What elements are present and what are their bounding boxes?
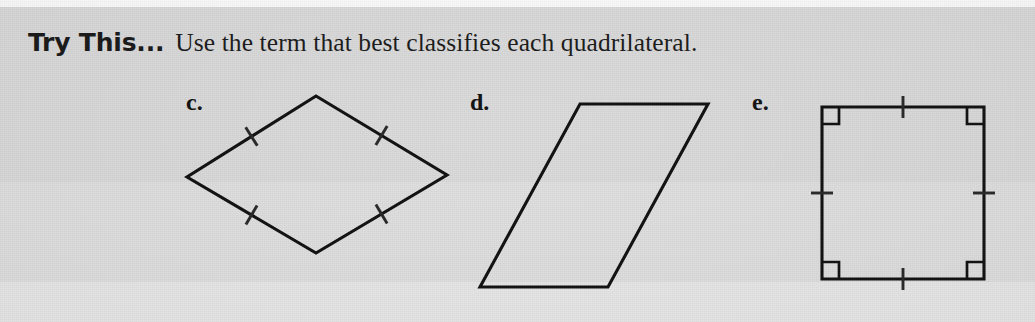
right-angle-mark	[967, 262, 984, 279]
square-right-angle-marks	[822, 107, 984, 279]
figure-label-e: e.	[752, 89, 769, 116]
exercise-heading: Try This... Use the term that best class…	[28, 28, 697, 58]
figure-label-d: d.	[470, 89, 489, 116]
try-this-callout: Try This...	[28, 28, 164, 57]
figure-label-c: c.	[186, 89, 203, 116]
right-angle-mark	[967, 107, 984, 124]
right-angle-mark	[822, 262, 839, 279]
worksheet-page: Try This... Use the term that best class…	[0, 0, 1035, 322]
exercise-instruction: Use the term that best classifies each q…	[175, 28, 697, 58]
right-angle-mark	[822, 107, 839, 124]
square-outline	[822, 107, 984, 279]
